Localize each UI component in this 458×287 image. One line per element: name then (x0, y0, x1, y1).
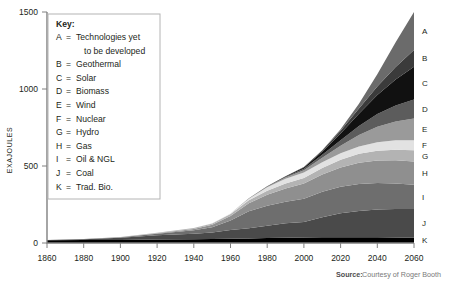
band-letter-J: J (422, 219, 426, 228)
x-tick-label-2060: 2060 (405, 253, 424, 263)
x-tick-label-1980: 1980 (258, 253, 277, 263)
legend-key-K: K (56, 182, 62, 192)
x-tick-label-1860: 1860 (38, 253, 57, 263)
legend-equals-G: = (66, 127, 71, 137)
x-tick-label-1900: 1900 (111, 253, 130, 263)
energy-stacked-area-chart: 1860188019001920194019601980200020202040… (0, 0, 458, 287)
x-tick-label-1920: 1920 (148, 253, 167, 263)
band-letter-F: F (422, 141, 427, 150)
x-tick-label-1880: 1880 (74, 253, 93, 263)
x-tick-label-1940: 1940 (184, 253, 203, 263)
legend-equals-C: = (66, 73, 71, 83)
x-tick-label-2040: 2040 (368, 253, 387, 263)
band-letter-B: B (422, 54, 427, 63)
legend-label-A: Technologies yet (76, 32, 141, 42)
source-attribution: Source: Courtesy of Roger Booth (336, 270, 441, 279)
source-text: Courtesy of Roger Booth (362, 270, 441, 279)
legend-label-C: Solar (76, 73, 96, 83)
legend-equals-F: = (66, 114, 71, 124)
x-tick-label-2020: 2020 (331, 253, 350, 263)
chart-canvas: 1860188019001920194019601980200020202040… (0, 0, 458, 287)
band-letter-K: K (422, 236, 428, 245)
legend-key-A: A (56, 32, 62, 42)
y-axis-title: EXAJOULES (6, 127, 13, 174)
legend-equals-B: = (66, 59, 71, 69)
legend-title: Key: (56, 19, 75, 29)
legend-label-I: Oil & NGL (76, 154, 115, 164)
legend-equals-I: = (66, 154, 71, 164)
legend-label-D: Biomass (76, 86, 109, 96)
y-tick-label-1000: 1000 (19, 84, 38, 94)
legend-key-D: D (56, 86, 62, 96)
legend-key-E: E (56, 100, 62, 110)
band-letter-A: A (422, 27, 428, 36)
y-tick-label-1500: 1500 (19, 7, 38, 17)
band-letter-G: G (422, 152, 428, 161)
legend-key-F: F (56, 114, 61, 124)
legend-equals-A: = (66, 32, 71, 42)
legend-label-K: Trad. Bio. (76, 182, 113, 192)
chart-legend: Key: A=Technologies yetto be developedB=… (48, 14, 160, 199)
legend-equals-K: = (66, 182, 71, 192)
legend-key-B: B (56, 59, 62, 69)
band-letter-E: E (422, 125, 427, 134)
x-axis-ticks (47, 243, 414, 248)
legend-label-J: Coal (76, 168, 94, 178)
band-letter-labels: KJIHGFEDCBA (422, 27, 428, 245)
legend-key-I: I (56, 154, 58, 164)
band-letter-H: H (422, 169, 428, 178)
legend-label-E: Wind (76, 100, 96, 110)
band-letter-D: D (422, 105, 428, 114)
legend-label-H: Gas (76, 141, 92, 151)
x-tick-label-1960: 1960 (221, 253, 240, 263)
legend-key-J: J (56, 168, 60, 178)
source-label: Source: (336, 270, 363, 279)
legend-label-G: Hydro (76, 127, 99, 137)
y-tick-label-0: 0 (33, 238, 38, 248)
y-tick-label-500: 500 (24, 161, 38, 171)
x-tick-label-2000: 2000 (294, 253, 313, 263)
legend-key-C: C (56, 73, 62, 83)
band-letter-C: C (422, 79, 428, 88)
legend-equals-E: = (66, 100, 71, 110)
legend-label-B: Geothermal (76, 59, 121, 69)
legend-equals-J: = (66, 168, 71, 178)
legend-label-F: Nuclear (76, 114, 106, 124)
legend-label-A-cont: to be developed (84, 46, 145, 56)
legend-equals-H: = (66, 141, 71, 151)
band-letter-I: I (422, 193, 424, 202)
legend-equals-D: = (66, 86, 71, 96)
legend-key-H: H (56, 141, 62, 151)
legend-key-G: G (56, 127, 63, 137)
x-axis-tick-labels: 1860188019001920194019601980200020202040… (38, 253, 424, 263)
y-axis-ticks (42, 12, 47, 243)
y-axis-tick-labels: 050010001500 (19, 7, 38, 248)
